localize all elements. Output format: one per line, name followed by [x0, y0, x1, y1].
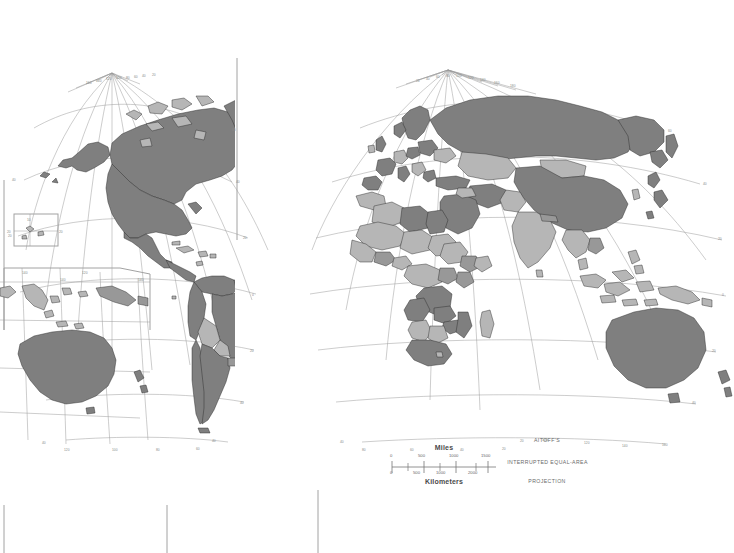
svg-text:160: 160	[662, 443, 668, 447]
scale-miles-tick-3: 1500	[481, 453, 490, 458]
svg-text:140: 140	[60, 278, 66, 282]
scale-miles-tick-2: 1000	[449, 453, 458, 458]
svg-text:40: 40	[340, 440, 344, 444]
svg-text:60: 60	[134, 75, 138, 79]
svg-text:80: 80	[362, 448, 366, 452]
svg-text:10: 10	[27, 218, 31, 222]
svg-text:160: 160	[494, 81, 500, 85]
svg-text:120: 120	[106, 77, 112, 81]
svg-text:20: 20	[250, 349, 254, 353]
svg-text:20: 20	[712, 349, 716, 353]
svg-text:20: 20	[718, 237, 722, 241]
scale-miles-tick-0: 0	[390, 453, 392, 458]
svg-text:80: 80	[446, 74, 450, 78]
svg-text:120: 120	[64, 448, 70, 452]
svg-text:0: 0	[252, 293, 254, 297]
svg-text:40: 40	[692, 401, 696, 405]
svg-text:60: 60	[668, 129, 672, 133]
svg-text:40: 40	[236, 180, 240, 184]
scale-miles-label: Miles	[388, 444, 500, 451]
svg-text:40: 40	[42, 441, 46, 445]
world-map-canvas: .land-d{fill:#7f7f7f;stroke:#2b2b2b;stro…	[0, 0, 734, 553]
svg-text:140: 140	[480, 78, 486, 82]
svg-text:140: 140	[138, 278, 144, 282]
svg-text:160: 160	[86, 81, 92, 85]
svg-text:120: 120	[82, 271, 88, 275]
svg-text:20: 20	[243, 236, 247, 240]
svg-text:20: 20	[8, 234, 12, 238]
map-page: .land-d{fill:#7f7f7f;stroke:#2b2b2b;stro…	[0, 0, 734, 553]
svg-text:0: 0	[722, 293, 724, 297]
svg-text:20: 20	[59, 230, 63, 234]
svg-text:180: 180	[510, 84, 516, 88]
svg-text:140: 140	[96, 79, 102, 83]
svg-text:20: 20	[152, 73, 156, 77]
svg-text:40: 40	[703, 182, 707, 186]
svg-text:40: 40	[212, 439, 216, 443]
projection-name-line2: INTERRUPTED EQUAL-AREA	[470, 459, 625, 465]
scale-bar: Miles Kilometers 0 500 1000 1500 0 500 1…	[388, 444, 500, 488]
scale-miles-tick-1: 500	[418, 453, 425, 458]
scale-kilometers-label: Kilometers	[388, 478, 500, 485]
svg-text:140: 140	[622, 444, 628, 448]
svg-text:20: 20	[502, 447, 506, 451]
svg-text:60: 60	[436, 75, 440, 79]
svg-text:40: 40	[426, 77, 430, 81]
svg-text:100: 100	[456, 74, 462, 78]
projection-name-line3: PROJECTION	[487, 478, 607, 484]
svg-text:40: 40	[240, 401, 244, 405]
svg-text:80: 80	[156, 448, 160, 452]
svg-text:100: 100	[112, 448, 118, 452]
svg-text:60: 60	[232, 128, 236, 132]
svg-text:60: 60	[196, 447, 200, 451]
projection-name-line1: AITOFF'S	[487, 437, 607, 443]
svg-text:40: 40	[142, 74, 146, 78]
svg-text:120: 120	[468, 76, 474, 80]
svg-text:80: 80	[126, 76, 130, 80]
svg-text:140: 140	[22, 271, 28, 275]
svg-text:40: 40	[12, 178, 16, 182]
svg-text:20: 20	[416, 79, 420, 83]
svg-text:100: 100	[116, 76, 122, 80]
